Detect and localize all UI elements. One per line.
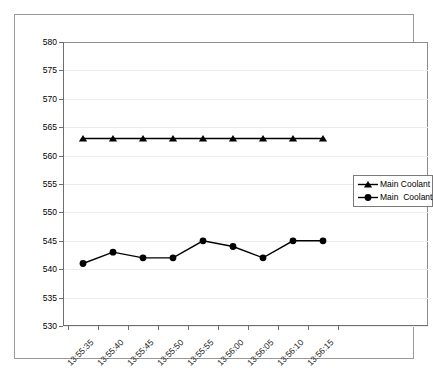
y-axis-tick-label: 530 [43, 322, 57, 331]
circle-marker-icon [230, 243, 237, 250]
legend-entry: Main Coolant [357, 178, 429, 191]
circle-marker-icon [170, 254, 177, 261]
chart-frame: 580575570565560555550545540535530 13:55:… [14, 14, 414, 359]
y-axis-tick-label: 560 [43, 151, 57, 160]
x-axis-tick-mark [158, 326, 159, 330]
circle-marker-icon [365, 194, 372, 201]
circle-marker-icon [80, 260, 87, 267]
chart-legend: Main CoolantMain Coolant [353, 175, 433, 207]
circle-marker-icon [140, 254, 147, 261]
y-axis-tick-label: 575 [43, 66, 57, 75]
circle-marker-icon [200, 237, 207, 244]
circle-marker-icon [290, 237, 297, 244]
x-axis-tick-mark [128, 326, 129, 330]
y-axis-tick-label: 540 [43, 265, 57, 274]
x-axis-tick-mark [248, 326, 249, 330]
y-axis-tick-label: 570 [43, 95, 57, 104]
x-axis-tick-label: 13:56:10 [276, 338, 305, 367]
legend-symbol [357, 192, 379, 203]
x-axis-tick-mark [68, 326, 69, 330]
x-axis-tick-label: 13:55:50 [156, 338, 185, 367]
y-axis-tick-label: 535 [43, 293, 57, 302]
x-axis-tick-label: 13:55:40 [96, 338, 125, 367]
circle-marker-icon [110, 249, 117, 256]
legend-label: Main Coolant [380, 193, 432, 202]
x-axis-tick-label: 13:55:45 [126, 338, 155, 367]
legend-symbol [357, 179, 379, 190]
circle-marker-icon [320, 237, 327, 244]
y-axis-tick-label: 550 [43, 208, 57, 217]
legend-label: Main Coolant [380, 180, 430, 189]
y-axis-tick-mark [59, 326, 63, 327]
gridline [63, 326, 428, 327]
x-axis-tick-mark [308, 326, 309, 330]
legend-entry: Main Coolant [357, 191, 429, 204]
y-axis-tick-label: 545 [43, 237, 57, 246]
x-axis-tick-label: 13:56:00 [216, 338, 245, 367]
series-1 [79, 135, 327, 142]
x-axis-tick-label: 13:55:35 [66, 338, 95, 367]
series-line [83, 241, 323, 264]
x-axis-tick-label: 13:55:55 [186, 338, 215, 367]
y-axis-tick-label: 580 [43, 38, 57, 47]
x-axis-line [63, 325, 428, 326]
x-axis-tick-label: 13:56:15 [306, 338, 335, 367]
y-axis-tick-label: 565 [43, 123, 57, 132]
y-axis-line [63, 42, 64, 326]
x-axis-tick-label: 13:56:05 [246, 338, 275, 367]
x-axis-tick-mark [218, 326, 219, 330]
x-axis-tick-mark [278, 326, 279, 330]
series-2 [80, 237, 327, 267]
x-axis-tick-mark [98, 326, 99, 330]
circle-marker-icon [260, 254, 267, 261]
x-axis-tick-mark [188, 326, 189, 330]
y-axis-tick-label: 555 [43, 180, 57, 189]
x-axis-tick-mark [338, 326, 339, 330]
